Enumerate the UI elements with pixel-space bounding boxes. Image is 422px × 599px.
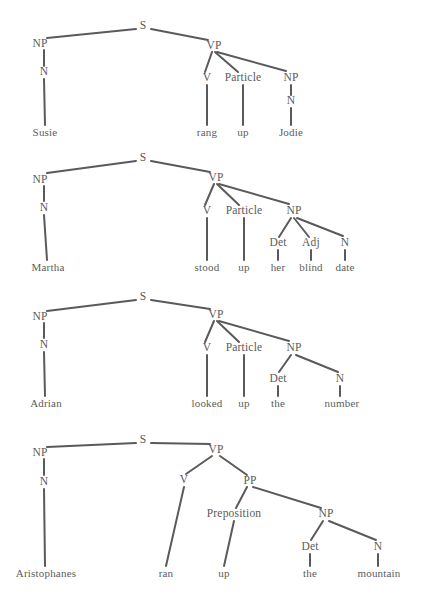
tree-branch	[236, 487, 247, 508]
tree-branch	[166, 487, 184, 566]
tree-branch	[220, 456, 247, 475]
tree-node-label: S	[140, 434, 147, 446]
tree-branch	[224, 521, 234, 566]
syntax-tree: SNPNAristophanesVPVranPPPrepositionupNPD…	[0, 0, 422, 599]
tree-terminal-word: mountain	[357, 568, 400, 579]
tree-node-label: NP	[318, 508, 333, 520]
tree-branch	[47, 443, 136, 447]
tree-terminal-word: up	[218, 568, 229, 579]
tree-branch	[186, 456, 212, 474]
tree-branch	[253, 487, 321, 508]
tree-terminal-word: ran	[159, 568, 174, 579]
tree-branch	[151, 443, 210, 444]
tree-branch	[329, 521, 376, 540]
tree-node-label: VP	[208, 444, 223, 456]
tree-node-label: NP	[32, 447, 47, 459]
tree-branch	[311, 521, 323, 540]
tree-terminal-word: the	[303, 568, 317, 579]
tree-node-label: V	[180, 474, 189, 486]
tree-node-label: N	[374, 541, 383, 553]
syntax-tree-figure: SNPNSusieVPVrangParticleupNPNJodieSNPNMa…	[0, 0, 422, 599]
tree-node-label: PP	[243, 475, 256, 487]
tree-node-label: Det	[301, 541, 318, 553]
tree-branch	[44, 489, 45, 566]
tree-terminal-word: Aristophanes	[16, 568, 76, 579]
tree-node-label: N	[40, 476, 49, 488]
tree-node-label: Preposition	[207, 508, 262, 520]
